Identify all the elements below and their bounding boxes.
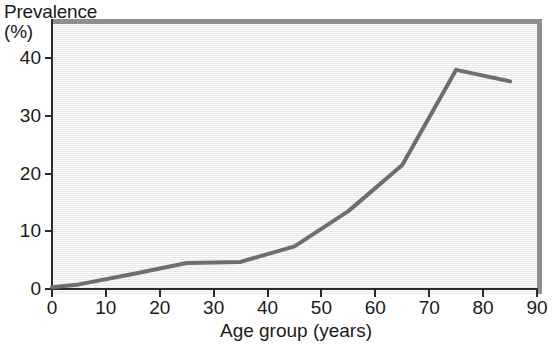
x-axis-title-text: Age group (years) bbox=[184, 320, 372, 341]
chart-figure: Prevalence (%) 0102030400102030405060708… bbox=[0, 0, 556, 349]
plot-area bbox=[52, 19, 542, 294]
x-axis-tick bbox=[374, 290, 376, 297]
x-axis-tick bbox=[428, 290, 430, 297]
x-axis-tick-label: 30 bbox=[189, 297, 239, 319]
y-axis-tick-label: 0 bbox=[0, 279, 41, 298]
y-axis-tick bbox=[45, 230, 52, 232]
x-axis-tick bbox=[320, 290, 322, 297]
x-axis-tick bbox=[159, 290, 161, 297]
y-axis-tick bbox=[45, 173, 52, 175]
y-axis-line bbox=[51, 19, 53, 290]
x-axis-tick-label: 10 bbox=[81, 297, 131, 319]
y-axis-tick-label: 30 bbox=[0, 106, 41, 125]
y-axis-tick-label: 40 bbox=[0, 48, 41, 67]
plot-background bbox=[52, 24, 537, 294]
y-axis-tick-label: 10 bbox=[0, 221, 41, 240]
x-axis-tick-label: 40 bbox=[243, 297, 293, 319]
y-axis-tick-label: 20 bbox=[0, 164, 41, 183]
y-axis-tick bbox=[45, 57, 52, 59]
x-axis-tick bbox=[536, 290, 538, 297]
x-axis-tick bbox=[51, 290, 53, 297]
x-axis-tick-label: 90 bbox=[512, 297, 556, 319]
x-axis-tick-label: 0 bbox=[27, 297, 77, 319]
x-axis-tick bbox=[105, 290, 107, 297]
x-axis-line bbox=[51, 288, 538, 290]
x-axis-title: Age group (years) bbox=[0, 320, 556, 342]
x-axis-tick-label: 80 bbox=[458, 297, 508, 319]
y-axis-tick bbox=[45, 115, 52, 117]
x-axis-tick-label: 50 bbox=[296, 297, 346, 319]
x-axis-tick-label: 20 bbox=[135, 297, 185, 319]
x-axis-tick-label: 70 bbox=[404, 297, 454, 319]
x-axis-tick bbox=[482, 290, 484, 297]
x-axis-tick bbox=[213, 290, 215, 297]
x-axis-tick-label: 60 bbox=[350, 297, 400, 319]
x-axis-tick bbox=[267, 290, 269, 297]
